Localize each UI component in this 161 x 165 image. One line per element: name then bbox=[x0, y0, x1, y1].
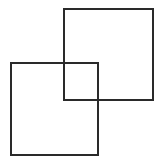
bottom-left-square bbox=[10, 62, 99, 156]
